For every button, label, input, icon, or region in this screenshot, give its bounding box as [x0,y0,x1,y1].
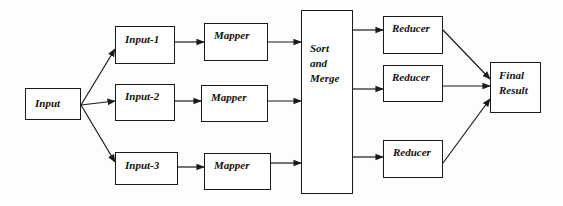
node-label: Mapper [211,91,246,103]
node-reducer1: Reducer [383,16,443,54]
node-sort: Sort and Merge [301,10,353,194]
mapreduce-diagram: InputInput-1Input-2Input-3MapperMapperMa… [0,0,563,206]
node-final: Final Result [490,62,541,113]
node-label: Input-1 [125,33,159,45]
node-reducer2: Reducer [383,65,443,102]
node-label: Mapper [214,159,249,171]
node-label: Input-3 [125,159,159,171]
node-label: Mapper [214,29,249,41]
node-input2: Input-2 [115,84,175,121]
edge-input-to-input3 [81,105,115,162]
edge-input-to-input1 [81,49,115,105]
node-label: Input-2 [125,90,159,102]
node-mapper2: Mapper [201,85,268,122]
node-input1: Input-1 [115,26,175,64]
node-label: Reducer [392,22,430,34]
node-label: Input [35,97,60,109]
node-input3: Input-3 [115,152,178,185]
node-mapper3: Mapper [204,153,271,190]
node-reducer3: Reducer [383,140,443,178]
node-mapper1: Mapper [204,23,268,61]
edge-input-to-input2 [81,101,115,105]
edges-layer [0,0,563,206]
node-label: Sort and Merge [310,41,339,86]
node-label: Reducer [392,71,430,83]
edge-reducer1-to-final [443,30,490,79]
node-label: Final Result [499,68,528,98]
node-label: Reducer [393,146,431,158]
edge-reducer3-to-final [443,99,490,163]
node-input: Input [25,88,81,120]
